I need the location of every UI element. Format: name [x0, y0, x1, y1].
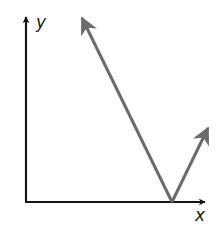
y-axis-label: y: [36, 14, 46, 31]
short-vector-arrow: [172, 128, 208, 202]
x-axis-label: x: [195, 207, 205, 224]
diagram-canvas: [0, 0, 218, 231]
long-vector-arrow: [82, 18, 172, 202]
vector-diagram: y x: [0, 0, 218, 231]
